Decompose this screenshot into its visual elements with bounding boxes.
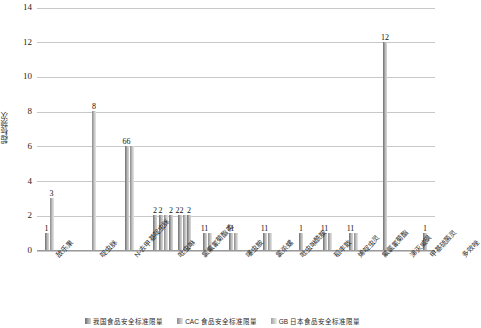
- bar: [130, 146, 134, 250]
- bar: 66: [125, 146, 129, 250]
- bar: 11: [229, 233, 233, 250]
- bar: 3: [50, 198, 54, 250]
- y-axis-tick-label: 14: [8, 3, 32, 12]
- bar-value-label: 11: [201, 224, 209, 233]
- bar-group: 8: [92, 111, 96, 250]
- bar: 1: [299, 233, 303, 250]
- gridline: [37, 181, 435, 182]
- y-axis-tick-label: 10: [8, 72, 32, 81]
- bar-value-label: 8: [92, 102, 96, 111]
- bar-value-label: 11: [347, 224, 355, 233]
- bar-group: 12: [383, 42, 387, 250]
- bar: 12: [383, 42, 387, 250]
- y-axis-tick-label: 6: [8, 142, 32, 151]
- bar-value-label: 2: [187, 206, 191, 215]
- legend-swatch: [271, 318, 277, 324]
- legend-label: CAC 食品安全标准限量: [185, 316, 257, 326]
- plot-area: 1386622222211111111111121: [37, 8, 435, 251]
- gridline: [37, 216, 435, 217]
- bar: 8: [92, 111, 96, 250]
- bar-value-label: 3: [50, 189, 54, 198]
- bar-value-label: 11: [261, 224, 269, 233]
- y-axis-tick-label: 0: [8, 246, 32, 255]
- y-axis-tick-label: 2: [8, 211, 32, 220]
- x-axis-tick-label: 多效唑: [461, 239, 480, 259]
- bar: 1: [45, 233, 49, 250]
- bar-value-label: 66: [123, 137, 131, 146]
- x-axis-tick-labels: 敌乐果啶虫脒N-去甲基啶虫脒吡虫啉氯氟氰菊酯类噻虫胺氯杀螺吡虫啉酰胺稻丰散烯啶虫…: [37, 254, 435, 316]
- bar: [268, 233, 272, 250]
- bar-group: 1: [299, 233, 303, 250]
- legend-label: 我国食品安全标准限量: [93, 316, 163, 326]
- legend-swatch: [85, 318, 91, 324]
- y-axis-title: 超标频次: [1, 112, 13, 144]
- bar-value-label: 1: [423, 224, 427, 233]
- bar-group: 66: [125, 146, 134, 250]
- bar-value-label: 12: [381, 33, 389, 42]
- bar-value-label: 2: [153, 206, 157, 215]
- y-axis-tick-label: 4: [8, 177, 32, 186]
- legend-item[interactable]: CAC 食品安全标准限量: [177, 316, 257, 326]
- bar-group: 13: [45, 198, 54, 250]
- legend-swatch: [177, 318, 183, 324]
- bar-value-label: 1: [299, 224, 303, 233]
- x-axis-line: [37, 250, 435, 251]
- bar-value-label: 2: [169, 206, 173, 215]
- chart-legend: 我国食品安全标准限量CAC 食品安全标准限量GB 日本食品安全标准限量: [0, 316, 445, 328]
- gridline: [37, 112, 435, 113]
- bar: 22: [178, 215, 182, 250]
- gridline: [37, 146, 435, 147]
- gridline: [37, 77, 435, 78]
- gridline: [37, 8, 435, 9]
- bar-group: 11: [263, 233, 272, 250]
- bar-value-label: 22: [176, 206, 184, 215]
- bar: [234, 233, 238, 250]
- bar: [328, 233, 332, 250]
- bar-value-label: 1: [45, 224, 49, 233]
- gridline: [37, 42, 435, 43]
- y-axis-tick-label: 12: [8, 38, 32, 47]
- legend-item[interactable]: GB 日本食品安全标准限量: [271, 316, 360, 326]
- bar-group: 11: [229, 233, 238, 250]
- bar: [354, 233, 358, 250]
- y-axis-tick-label: 8: [8, 107, 32, 116]
- legend-item[interactable]: 我国食品安全标准限量: [85, 316, 163, 326]
- legend-label: GB 日本食品安全标准限量: [279, 316, 360, 326]
- bar-value-label: 2: [159, 206, 163, 215]
